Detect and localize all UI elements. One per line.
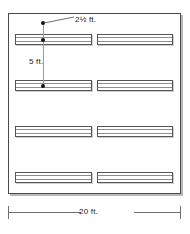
measurement-node-dot [41, 84, 45, 88]
bench-slat-line [98, 179, 172, 180]
bench-width-label: 2½ ft. [75, 15, 96, 24]
dimension-rule-left [9, 212, 81, 213]
floor-plan-figure: 2½ ft. 5 ft. 20 ft. [0, 0, 190, 234]
bench-unit [97, 172, 173, 183]
bench-slat-line [98, 87, 172, 88]
bench-slat-line [16, 179, 91, 180]
bench-slat-line [16, 129, 91, 130]
bench-slat-line [16, 133, 91, 134]
bench-slat-line [16, 83, 91, 84]
bench-slat-line [16, 87, 91, 88]
dimension-tick-right [180, 206, 181, 219]
bench-slat-line [98, 133, 172, 134]
dimension-rule-right [134, 212, 180, 213]
overall-width-label: 20 ft. [79, 207, 98, 216]
row-spacing-label: 5 ft. [29, 57, 43, 66]
measurement-node-dot [41, 38, 45, 42]
leader-line [44, 17, 74, 23]
bench-unit [15, 126, 92, 137]
vertical-measurement-line [43, 22, 44, 87]
bench-unit [15, 34, 92, 45]
bench-slat-line [98, 37, 172, 38]
bench-unit [97, 80, 173, 91]
bench-unit [15, 80, 92, 91]
bench-slat-line [98, 175, 172, 176]
bench-slat-line [98, 129, 172, 130]
bench-unit [97, 126, 173, 137]
bench-unit [15, 172, 92, 183]
bench-slat-line [98, 41, 172, 42]
bench-slat-line [16, 41, 91, 42]
bench-slat-line [16, 37, 91, 38]
bench-slat-line [98, 83, 172, 84]
bench-slat-line [16, 175, 91, 176]
bench-unit [97, 34, 173, 45]
